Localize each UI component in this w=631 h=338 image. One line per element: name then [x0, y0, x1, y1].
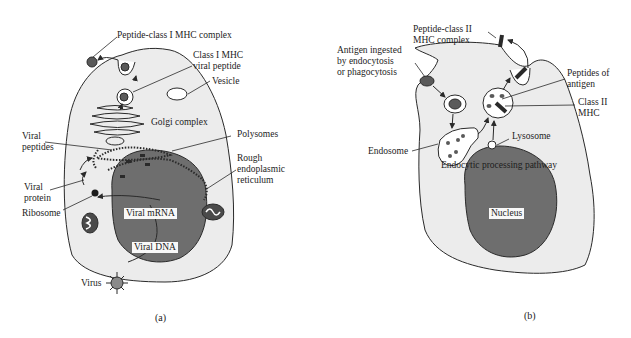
label-vesicle: Vesicle	[212, 76, 239, 87]
label-viral-dna: Viral DNA	[132, 242, 178, 253]
label-golgi: Golgi complex	[151, 117, 208, 128]
label-antigen-ingested: Antigen ingested by endocytosis or phago…	[337, 45, 402, 78]
label-nucleus: Nucleus	[489, 208, 524, 219]
label-peptides-of-antigen: Peptides of antigen	[567, 68, 609, 90]
label-class2-mhc: Class II MHC	[578, 97, 607, 119]
vesicle-icon	[167, 88, 187, 100]
mhc1-molecule-icon	[120, 93, 128, 101]
peptide-mhc2-complex-icon	[500, 35, 502, 47]
caption-b: (b)	[524, 310, 536, 321]
label-lysosome: Lysosome	[512, 131, 551, 142]
label-endocytic-pathway: Endocytic processing pathway	[441, 160, 557, 171]
label-rough-er: Rough endoplasmic reticulum	[237, 153, 285, 186]
ribosome-icon	[92, 190, 99, 197]
label-virus: Virus	[81, 278, 102, 289]
label-class1-viral-peptide: Class I MHC viral peptide	[193, 50, 243, 72]
label-viral-peptides: Viral peptides	[22, 131, 54, 153]
label-viral-protein: Viral protein	[24, 182, 51, 204]
label-ribosome: Ribosome	[22, 208, 61, 219]
caption-a: (a)	[155, 312, 166, 323]
label-endosome: Endosome	[368, 146, 408, 157]
lysosome-icon	[488, 141, 496, 149]
panel-a-cell	[45, 37, 236, 294]
label-peptide-class2-complex: Peptide-class II MHC complex	[413, 24, 472, 46]
label-peptide-class1-complex: Peptide-class I MHC complex	[117, 30, 232, 41]
label-viral-mrna: Viral mRNA	[124, 208, 177, 219]
peptide-mhc1-complex-icon	[87, 57, 97, 67]
label-polysomes: Polysomes	[237, 129, 278, 140]
